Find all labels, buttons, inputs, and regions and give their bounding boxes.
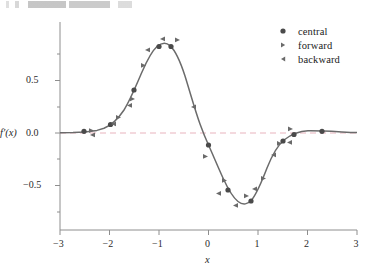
x-tick-label: 0 bbox=[205, 238, 210, 249]
x-tick-label: 1 bbox=[255, 238, 260, 249]
triangle-left-marker bbox=[160, 37, 165, 42]
legend-label-forward: forward bbox=[294, 40, 332, 51]
circle-marker bbox=[280, 138, 285, 143]
triangle-left-marker bbox=[233, 203, 238, 208]
x-tick-label: −2 bbox=[103, 238, 114, 249]
y-axis-label: f′(x) bbox=[0, 127, 17, 138]
legend-label-backward: backward bbox=[294, 54, 340, 65]
x-tick-label: −3 bbox=[53, 238, 64, 249]
y-tick-label: 0.5 bbox=[26, 74, 39, 85]
forward-markers bbox=[89, 38, 293, 199]
circle-marker bbox=[168, 44, 173, 49]
triangle-right-marker bbox=[89, 128, 94, 133]
triangle-left-marker bbox=[287, 140, 292, 145]
x-axis-ticks bbox=[60, 230, 357, 235]
legend-item-central: central bbox=[272, 24, 364, 38]
y-axis-ticks bbox=[55, 54, 60, 212]
triangle-left-marker bbox=[252, 187, 257, 192]
derivative-plot-figure: 0.5 0.0 −0.5 f′(x) −3 −2 −1 0 1 2 3 x ce… bbox=[0, 0, 367, 275]
x-axis-label: x bbox=[205, 254, 210, 265]
legend: central forward backward bbox=[272, 24, 364, 66]
circle-marker bbox=[291, 132, 296, 137]
derivative-curve bbox=[60, 43, 357, 204]
circle-marker bbox=[225, 187, 230, 192]
legend-item-forward: forward bbox=[272, 38, 364, 52]
x-tick-label: −1 bbox=[152, 238, 163, 249]
triangle-left-icon bbox=[272, 53, 294, 65]
y-tick-label: 0.0 bbox=[26, 127, 39, 138]
triangle-left-marker bbox=[216, 191, 221, 196]
triangle-right-marker bbox=[203, 154, 208, 159]
circle-marker bbox=[156, 44, 161, 49]
circle-icon bbox=[272, 25, 294, 37]
y-tick-label: −0.5 bbox=[23, 179, 41, 190]
legend-item-backward: backward bbox=[272, 52, 364, 66]
triangle-right-marker bbox=[130, 97, 135, 102]
triangle-right-marker bbox=[175, 38, 180, 43]
x-tick-label: 2 bbox=[304, 238, 309, 249]
circle-marker bbox=[248, 198, 253, 203]
circle-marker bbox=[81, 129, 86, 134]
triangle-right-marker bbox=[288, 127, 293, 132]
triangle-right-marker bbox=[244, 194, 249, 199]
circle-marker bbox=[206, 142, 211, 147]
triangle-right-icon bbox=[272, 39, 294, 51]
triangle-left-marker bbox=[145, 48, 150, 53]
circle-marker bbox=[131, 87, 136, 92]
legend-label-central: central bbox=[294, 26, 328, 37]
x-tick-label: 3 bbox=[354, 238, 359, 249]
y-axis-label-text: f′(x) bbox=[0, 127, 17, 138]
central-markers bbox=[81, 44, 324, 204]
circle-marker bbox=[319, 129, 324, 134]
